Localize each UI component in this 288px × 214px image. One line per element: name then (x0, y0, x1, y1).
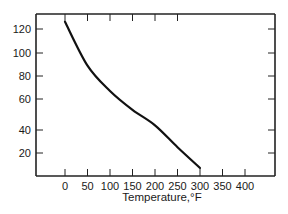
y-tick-label: 20 (19, 147, 31, 159)
x-axis-ticks: 050100150200250300350400 (62, 14, 254, 192)
y-tick-label: 100 (13, 47, 31, 59)
y-tick-label: 80 (19, 70, 31, 82)
data-curve (65, 22, 200, 168)
y-tick-label: 60 (19, 93, 31, 105)
y-axis-ticks: 20406080100120 (13, 23, 275, 159)
x-tick-label: 0 (62, 180, 68, 192)
x-tick-label: 350 (213, 180, 231, 192)
y-tick-label: 120 (13, 23, 31, 35)
x-tick-label: 50 (81, 180, 93, 192)
x-tick-label: 400 (236, 180, 254, 192)
temperature-chart: 050100150200250300350400 20406080100120 … (0, 0, 288, 214)
x-tick-label: 100 (101, 180, 119, 192)
y-tick-label: 40 (19, 124, 31, 136)
x-axis-title: Temperature,°F (122, 191, 201, 203)
